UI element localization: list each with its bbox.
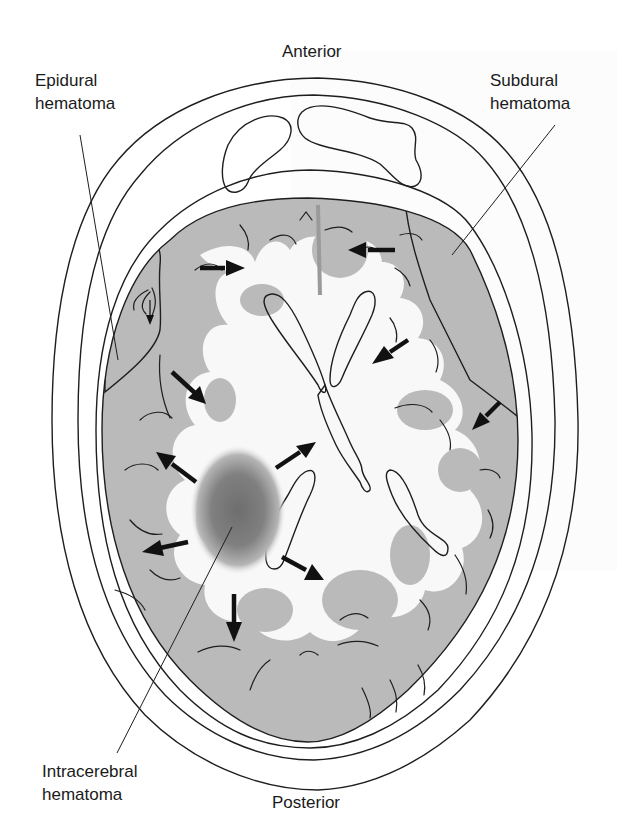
intracerebral-hematoma	[190, 445, 286, 575]
label-subdural-line1: Subdural	[490, 71, 558, 90]
frontal-sinus-left	[222, 116, 291, 192]
falx-cerebri	[318, 205, 320, 295]
label-intracerebral-line2: hematoma	[42, 785, 123, 804]
label-posterior: Posterior	[272, 793, 340, 812]
label-intracerebral-line1: Intracerebral	[42, 762, 137, 781]
label-epidural-line2: hematoma	[35, 94, 116, 113]
label-subdural-line2: hematoma	[490, 94, 571, 113]
label-epidural-line1: Epidural	[35, 71, 97, 90]
leader-epidural	[80, 135, 118, 360]
head-cross-section-diagram: Anterior Epidural hematoma Subdural hema…	[0, 0, 617, 815]
label-anterior: Anterior	[282, 42, 342, 61]
